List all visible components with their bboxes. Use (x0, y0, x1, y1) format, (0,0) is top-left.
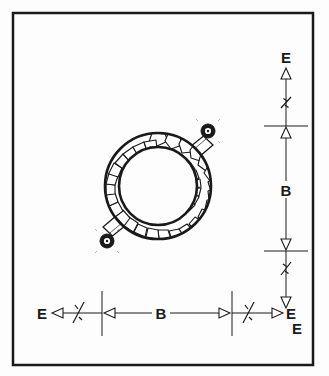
vdim-arrow-b-bottom (281, 239, 291, 250)
vdim-label-top: E (281, 49, 291, 66)
vdim-label-middle: B (281, 182, 292, 199)
hdim-label-right: E (292, 320, 302, 337)
hdim-label-left: E (37, 305, 47, 322)
figure-root: E B E (0, 0, 329, 376)
horizontal-dimension-stack (52, 291, 283, 336)
hdim-arrow-b-left (104, 308, 115, 318)
hdim-label-middle: B (156, 305, 167, 322)
figure-canvas: E B E (0, 0, 329, 376)
hdim-arrow-left (52, 308, 63, 318)
vdim-arrow-top (281, 68, 291, 79)
vdim-arrow-b-top (281, 127, 291, 138)
hdim-arrow-right (272, 308, 283, 318)
hdim-arrow-b-right (219, 308, 230, 318)
